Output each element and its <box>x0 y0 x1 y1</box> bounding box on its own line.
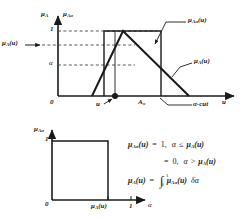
membership-function-curve <box>92 31 189 96</box>
callout-line-alpha-cut <box>160 98 192 105</box>
integral-symbol: ∫ 1 0 <box>160 176 164 185</box>
top-chart-x-tick-u: u <box>96 101 100 108</box>
bottom-chart-origin-label: 0 <box>45 201 49 208</box>
callout-line-mu-a-alpha <box>155 22 186 44</box>
top-chart-origin-label: 0 <box>50 99 54 106</box>
top-chart-callout-alpha-cut: α-cut <box>193 101 208 108</box>
bottom-chart-x-tick-one: 1 <box>129 203 133 210</box>
figure-container: μA μAα 1 α μA(u) 0 u Aα α-cut u μAα(u) μ… <box>0 0 248 223</box>
callout-line-u <box>104 99 112 104</box>
top-chart-axes <box>58 16 234 96</box>
top-chart-callout-mu-a-alpha: μAα(u) <box>188 17 207 24</box>
bottom-chart-x-tick-mu: μA(u) <box>91 203 107 210</box>
top-chart-callout-mu-a: μA(u) <box>194 58 210 65</box>
bottom-chart-step-curve <box>52 141 108 200</box>
equation-line-3: μA(u) = ∫ 1 0 μAα(u) δα <box>128 176 199 185</box>
equation-line-2: = 0, α > μA(u) <box>164 157 216 166</box>
bottom-chart-x-axis-label: α <box>148 202 152 209</box>
bottom-chart-y-axis-label: μAα <box>34 126 44 133</box>
callout-line-mu-a <box>172 63 192 77</box>
bottom-chart-y-tick-one: 1 <box>45 136 49 143</box>
top-chart-pointer-label: μA(u) <box>2 40 18 47</box>
top-chart-x-axis-label: u <box>222 99 226 106</box>
figure-graphics <box>0 0 248 223</box>
top-chart-y-axis-label-left: μA <box>41 11 48 18</box>
top-chart-y-tick-one: 1 <box>50 26 54 33</box>
equation-line-1: μAα(u) = 1, α ≤ μA(u) <box>128 140 204 149</box>
top-chart-x-tick-a-alpha: Aα <box>138 99 145 106</box>
top-chart-y-tick-alpha: α <box>49 60 53 67</box>
top-chart-y-axis-label-right: μAα <box>63 11 73 18</box>
